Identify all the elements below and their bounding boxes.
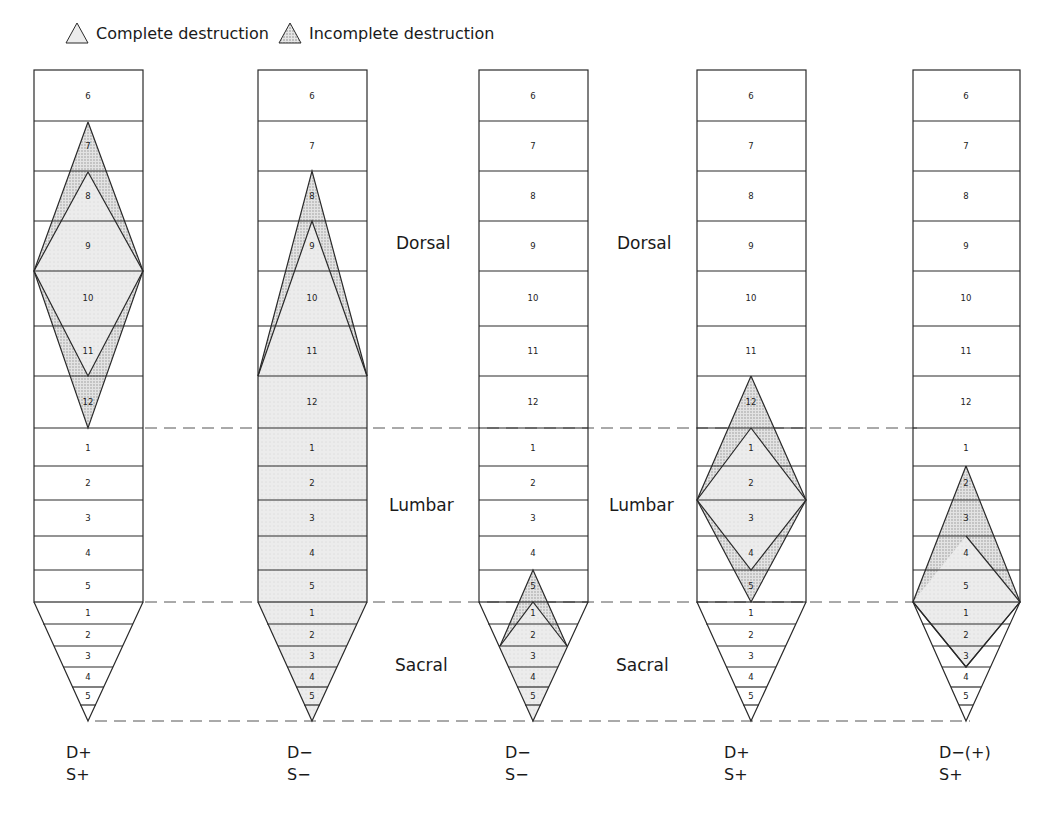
segment-number: 12 — [961, 397, 972, 407]
segment-number: 5 — [963, 691, 968, 701]
segment-number: 4 — [85, 548, 90, 558]
segment-number: 3 — [530, 513, 535, 523]
segment-number: 8 — [748, 191, 753, 201]
segment-number: 5 — [530, 581, 535, 591]
segment-number: 3 — [85, 513, 90, 523]
segment-number: 5 — [309, 581, 314, 591]
segment-number: 11 — [307, 346, 318, 356]
segment-number: 12 — [746, 397, 757, 407]
segment-number: 7 — [963, 141, 968, 151]
segment-number: 9 — [748, 241, 753, 251]
segment-number: 1 — [85, 608, 90, 618]
segment-number: 3 — [963, 651, 968, 661]
region-label-dorsal: Dorsal — [617, 233, 671, 253]
segment-number: 3 — [309, 513, 314, 523]
column-5 — [913, 70, 1020, 721]
column-4-codes: D+ S+ — [724, 742, 750, 786]
d-code: D+ — [724, 742, 750, 764]
column-1-codes: D+ S+ — [66, 742, 92, 786]
region-label-dorsal: Dorsal — [396, 233, 450, 253]
d-code: D− — [505, 742, 531, 764]
segment-number: 5 — [963, 581, 968, 591]
segment-number: 1 — [963, 608, 968, 618]
segment-number: 9 — [85, 241, 90, 251]
segment-number: 4 — [963, 672, 968, 682]
segment-number: 9 — [309, 241, 314, 251]
column-3-codes: D− S− — [505, 742, 531, 786]
segment-number: 8 — [963, 191, 968, 201]
segment-number: 7 — [748, 141, 753, 151]
segment-number: 5 — [748, 581, 753, 591]
d-code: D−(+) — [939, 742, 991, 764]
segment-number: 6 — [309, 91, 314, 101]
segment-number: 1 — [309, 443, 314, 453]
segment-number: 1 — [530, 443, 535, 453]
region-label-sacral: Sacral — [395, 655, 448, 675]
region-label-sacral: Sacral — [616, 655, 669, 675]
segment-number: 1 — [748, 608, 753, 618]
segment-number: 12 — [307, 397, 318, 407]
segment-number: 10 — [961, 293, 972, 303]
segment-number: 5 — [85, 581, 90, 591]
segment-number: 2 — [963, 630, 968, 640]
column-5-codes: D−(+) S+ — [939, 742, 991, 786]
segment-number: 5 — [530, 691, 535, 701]
segment-number: 11 — [746, 346, 757, 356]
segment-number: 8 — [530, 191, 535, 201]
segment-number: 7 — [309, 141, 314, 151]
segment-number: 3 — [748, 513, 753, 523]
segment-number: 4 — [85, 672, 90, 682]
segment-number: 1 — [748, 443, 753, 453]
column-2 — [258, 70, 367, 721]
segment-number: 5 — [85, 691, 90, 701]
segment-number: 1 — [85, 443, 90, 453]
segment-number: 2 — [309, 630, 314, 640]
segment-number: 12 — [528, 397, 539, 407]
segment-number: 6 — [530, 91, 535, 101]
segment-number: 4 — [748, 548, 753, 558]
segment-number: 10 — [528, 293, 539, 303]
segment-number: 10 — [746, 293, 757, 303]
column-4 — [697, 70, 806, 721]
segment-number: 10 — [307, 293, 318, 303]
segment-number: 10 — [83, 293, 94, 303]
segment-number: 3 — [963, 513, 968, 523]
segment-number: 2 — [530, 630, 535, 640]
segment-number: 4 — [309, 672, 314, 682]
segment-number: 8 — [309, 191, 314, 201]
segment-number: 1 — [309, 608, 314, 618]
s-code: S+ — [724, 764, 750, 786]
d-code: D+ — [66, 742, 92, 764]
segment-number: 2 — [963, 478, 968, 488]
segment-number: 3 — [748, 651, 753, 661]
s-code: S− — [287, 764, 313, 786]
segment-number: 1 — [963, 443, 968, 453]
region-label-lumbar: Lumbar — [609, 495, 674, 515]
segment-number: 5 — [309, 691, 314, 701]
region-label-lumbar: Lumbar — [389, 495, 454, 515]
column-2-codes: D− S− — [287, 742, 313, 786]
segment-number: 4 — [530, 548, 535, 558]
segment-number: 5 — [748, 691, 753, 701]
segment-number: 7 — [530, 141, 535, 151]
segment-number: 11 — [528, 346, 539, 356]
segment-number: 2 — [530, 478, 535, 488]
segment-number: 4 — [530, 672, 535, 682]
segment-number: 6 — [85, 91, 90, 101]
s-code: S+ — [66, 764, 92, 786]
segment-number: 4 — [963, 548, 968, 558]
segment-number: 3 — [85, 651, 90, 661]
segment-number: 2 — [85, 630, 90, 640]
segment-number: 9 — [530, 241, 535, 251]
s-code: S+ — [939, 764, 991, 786]
segment-number: 2 — [309, 478, 314, 488]
segment-number: 8 — [85, 191, 90, 201]
segment-number: 12 — [83, 397, 94, 407]
segment-number: 2 — [748, 478, 753, 488]
segment-number: 9 — [963, 241, 968, 251]
segment-number: 7 — [85, 141, 90, 151]
s-code: S− — [505, 764, 531, 786]
segment-number: 1 — [530, 608, 535, 618]
column-3 — [479, 70, 588, 721]
segment-number: 4 — [309, 548, 314, 558]
